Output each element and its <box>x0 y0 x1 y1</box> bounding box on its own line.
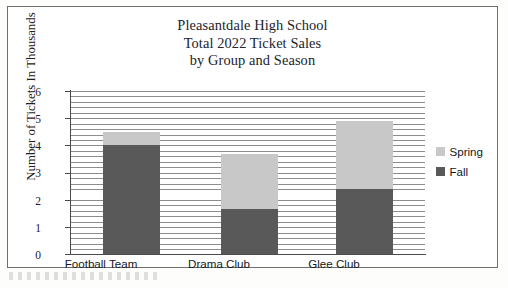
legend-swatch-fall-icon <box>436 167 445 176</box>
chart-frame: Pleasantdale High School Total 2022 Tick… <box>7 6 498 268</box>
bar-segment-fall-drama-club[interactable] <box>221 209 278 254</box>
page-canvas: Pleasantdale High School Total 2022 Tick… <box>0 0 508 288</box>
y-tick-label-1: 1 <box>1 223 41 235</box>
bar-segment-spring-football-team[interactable] <box>103 132 160 146</box>
chart-title: Pleasantdale High School Total 2022 Tick… <box>8 17 497 70</box>
grid-line-5 <box>71 118 425 119</box>
chart-title-line-1: Pleasantdale High School <box>8 17 497 35</box>
x-tick-label-football-team: Football Team <box>36 258 166 271</box>
bar-segment-spring-drama-club[interactable] <box>221 154 278 210</box>
chart-title-line-2: Total 2022 Ticket Sales <box>8 35 497 53</box>
bar-drama-club[interactable] <box>221 154 278 254</box>
x-tick-label-drama-club: Drama Club <box>154 258 284 271</box>
bar-football-team[interactable] <box>103 132 160 254</box>
bar-glee-club[interactable] <box>336 121 393 254</box>
bar-segment-spring-glee-club[interactable] <box>336 121 393 189</box>
plot-area <box>71 91 425 254</box>
bar-segment-fall-glee-club[interactable] <box>336 189 393 254</box>
x-axis-line <box>70 254 426 255</box>
chart-legend: Spring Fall <box>436 145 496 185</box>
y-tick-label-4: 4 <box>1 141 41 153</box>
legend-swatch-spring-icon <box>436 147 445 156</box>
y-tick-label-6: 6 <box>1 87 41 99</box>
y-tick-label-2: 2 <box>1 196 41 208</box>
legend-item-fall[interactable]: Fall <box>436 165 496 178</box>
y-tick-label-0: 0 <box>1 250 41 262</box>
scan-artifact <box>9 272 159 280</box>
y-axis-line <box>70 90 71 255</box>
legend-item-spring[interactable]: Spring <box>436 145 496 158</box>
legend-label-fall: Fall <box>450 165 469 178</box>
chart-title-line-3: by Group and Season <box>8 52 497 70</box>
y-tick-label-5: 5 <box>1 114 41 126</box>
x-tick-label-glee-club: Glee Club <box>269 258 399 271</box>
bar-segment-fall-football-team[interactable] <box>103 145 160 254</box>
grid-line-6 <box>71 91 425 92</box>
legend-label-spring: Spring <box>450 145 484 158</box>
y-tick-label-3: 3 <box>1 168 41 180</box>
